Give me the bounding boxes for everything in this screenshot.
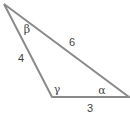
side-left-label: 4 xyxy=(18,53,24,64)
triangle-shape xyxy=(4,4,129,97)
angle-alpha-label: α xyxy=(98,85,105,96)
angle-beta-label: β xyxy=(24,24,30,35)
angle-gamma-label: γ xyxy=(54,84,61,95)
side-hypotenuse-label: 6 xyxy=(69,37,75,48)
side-bottom-label: 3 xyxy=(87,103,93,114)
